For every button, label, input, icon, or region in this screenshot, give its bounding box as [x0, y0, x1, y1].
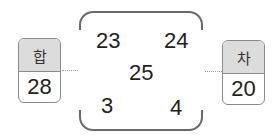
difference-value: 20 [223, 74, 264, 104]
connector-right [205, 71, 222, 72]
frame-gap-right [200, 30, 204, 110]
difference-label: 차 [223, 41, 264, 74]
difference-box: 차 20 [222, 40, 265, 105]
connector-left [62, 70, 78, 71]
sum-box: 합 28 [18, 38, 61, 103]
sum-label: 합 [19, 39, 60, 72]
number-bottom-right: 4 [170, 97, 182, 119]
number-center: 25 [129, 62, 153, 84]
sum-value: 28 [19, 72, 60, 102]
number-top-left: 23 [96, 30, 120, 52]
number-top-right: 24 [164, 30, 188, 52]
number-bottom-left: 3 [101, 95, 113, 117]
frame-gap-left [78, 30, 82, 110]
